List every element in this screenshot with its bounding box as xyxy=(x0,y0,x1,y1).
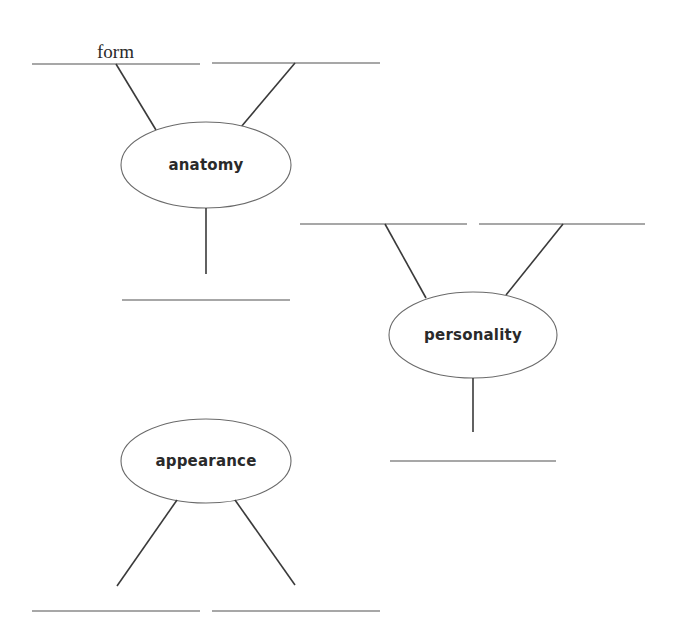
node-label-appearance: appearance xyxy=(155,452,256,470)
answer-text-anatomy-top-left: form xyxy=(97,41,134,62)
node-label-anatomy: anatomy xyxy=(168,156,243,174)
connector-appearance-bottom-left xyxy=(117,500,177,586)
concept-web-diagram: form anatomy personality app xyxy=(0,0,678,636)
connector-anatomy-top-right xyxy=(241,63,295,127)
connector-appearance-bottom-right xyxy=(235,500,295,585)
node-group-appearance: appearance xyxy=(32,419,380,611)
node-group-personality: personality xyxy=(300,224,645,461)
connector-personality-top-right xyxy=(506,224,563,295)
node-group-anatomy: form anatomy xyxy=(32,41,380,300)
connector-anatomy-top-left xyxy=(116,64,156,130)
node-label-personality: personality xyxy=(424,326,522,344)
connector-personality-top-left xyxy=(385,224,426,298)
